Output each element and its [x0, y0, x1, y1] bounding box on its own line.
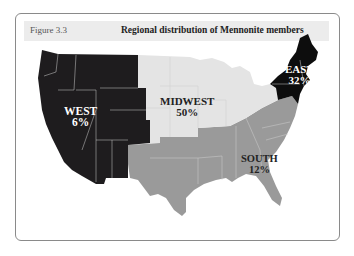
- region-label-south: SOUTH 12%: [241, 153, 278, 175]
- region-label-west: WEST 6%: [64, 106, 97, 128]
- region-label-midwest: MIDWEST 50%: [160, 96, 214, 118]
- region-label-east: EAST 32%: [285, 64, 314, 86]
- midwest-percent: 50%: [160, 107, 214, 118]
- west-percent: 6%: [64, 117, 97, 128]
- us-region-map: [0, 0, 354, 256]
- south-name: SOUTH: [241, 153, 278, 164]
- east-percent: 32%: [285, 75, 314, 86]
- south-percent: 12%: [241, 164, 278, 175]
